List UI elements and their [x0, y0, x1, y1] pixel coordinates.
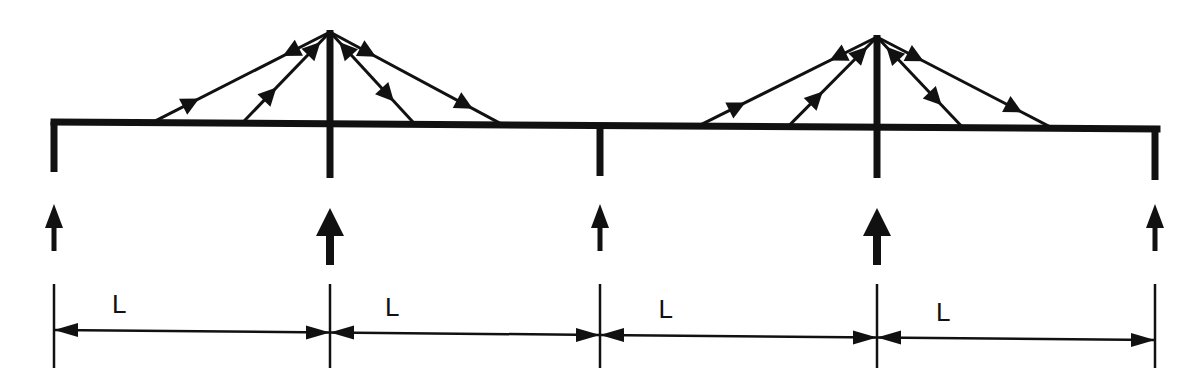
reaction-arrow-icon — [1146, 204, 1164, 251]
dimension-arrow-left-icon — [600, 328, 624, 342]
bridge-deck — [54, 122, 1157, 129]
dimension-arrow-right-icon — [1131, 333, 1155, 347]
stay-cable — [877, 37, 1053, 128]
span-dimension-4: L — [877, 297, 1155, 347]
stay-cables — [152, 32, 1053, 128]
reaction-arrow-icon — [591, 204, 609, 251]
stay-cable — [330, 32, 503, 125]
span-dimension-3: L — [600, 294, 877, 344]
stay-cable — [152, 32, 330, 123]
stay-cable — [698, 37, 877, 126]
dimension-arrow-right-icon — [306, 326, 330, 340]
dimension-arrow-left-icon — [330, 326, 354, 340]
span-dimension-2: L — [330, 292, 600, 342]
dimension-arrow-left-icon — [877, 330, 901, 344]
dimension-arrow-right-icon — [853, 330, 877, 344]
dimension-arrow-left-icon — [54, 323, 78, 337]
reaction-arrow-icon — [45, 204, 63, 251]
span-length-label: L — [112, 289, 126, 319]
reaction-arrow-icon — [863, 208, 891, 265]
reaction-arrow-icon — [316, 208, 344, 265]
span-length-label: L — [385, 292, 399, 322]
span-length-label: L — [936, 297, 950, 327]
dimension-arrow-right-icon — [576, 328, 600, 342]
bridge-diagram: LLLL — [0, 0, 1192, 391]
span-length-label: L — [659, 294, 673, 324]
deck-girder — [54, 122, 1157, 129]
reaction-arrows — [45, 204, 1164, 265]
span-dimension-1: L — [54, 289, 330, 339]
span-dimensions: LLLL — [54, 284, 1155, 368]
